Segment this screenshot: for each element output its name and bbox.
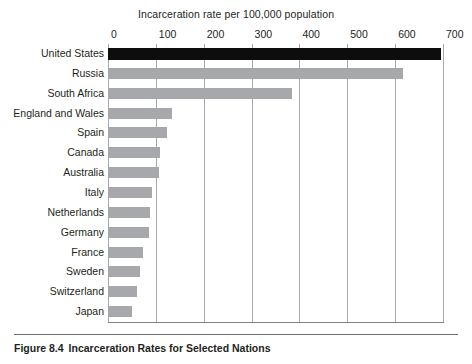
x-tick-label-200: 200 bbox=[204, 28, 225, 40]
category-label-russia: Russia bbox=[72, 65, 104, 82]
bar-germany bbox=[108, 227, 149, 238]
x-tick-label-700: 700 bbox=[443, 28, 464, 40]
bar-sweden bbox=[108, 266, 140, 277]
bar-row: United States bbox=[108, 44, 443, 64]
bar-australia bbox=[108, 167, 159, 178]
bar-switzerland bbox=[108, 286, 137, 297]
gridline-700 bbox=[443, 44, 444, 322]
category-label-netherlands: Netherlands bbox=[47, 204, 104, 221]
figure-caption-text: Incarceration Rates for Selected Nations bbox=[69, 342, 271, 354]
x-tick-label-600: 600 bbox=[395, 28, 416, 40]
category-label-england-and-wales: England and Wales bbox=[13, 105, 104, 122]
bar-row: Switzerland bbox=[108, 282, 443, 302]
figure-caption: Figure 8.4Incarceration Rates for Select… bbox=[14, 342, 271, 354]
category-label-spain: Spain bbox=[77, 124, 104, 141]
bar-row: Italy bbox=[108, 183, 443, 203]
category-label-australia: Australia bbox=[63, 164, 104, 181]
bar-row: Australia bbox=[108, 163, 443, 183]
bar-japan bbox=[108, 306, 132, 317]
caption-divider bbox=[14, 334, 458, 335]
x-tick-label-500: 500 bbox=[347, 28, 368, 40]
bar-row: Canada bbox=[108, 143, 443, 163]
x-tick-label-300: 300 bbox=[252, 28, 273, 40]
bar-row: Sweden bbox=[108, 262, 443, 282]
x-tick-label-400: 400 bbox=[299, 28, 320, 40]
chart-title: Incarceration rate per 100,000 populatio… bbox=[0, 8, 472, 20]
category-label-japan: Japan bbox=[75, 303, 104, 320]
bar-row: South Africa bbox=[108, 84, 443, 104]
bar-russia bbox=[108, 68, 403, 79]
bar-south-africa bbox=[108, 88, 292, 99]
category-label-south-africa: South Africa bbox=[47, 85, 104, 102]
x-axis-line bbox=[108, 322, 444, 323]
category-label-united-states: United States bbox=[41, 45, 104, 62]
bar-netherlands bbox=[108, 207, 150, 218]
bar-canada bbox=[108, 147, 160, 158]
bar-row: Russia bbox=[108, 64, 443, 84]
bar-row: England and Wales bbox=[108, 104, 443, 124]
bar-row: France bbox=[108, 243, 443, 263]
bar-italy bbox=[108, 187, 152, 198]
bar-row: Japan bbox=[108, 302, 443, 322]
bar-row: Germany bbox=[108, 223, 443, 243]
category-label-switzerland: Switzerland bbox=[50, 283, 104, 300]
bar-row: Netherlands bbox=[108, 203, 443, 223]
category-label-italy: Italy bbox=[85, 184, 104, 201]
bar-united-states bbox=[108, 48, 441, 60]
bar-england-and-wales bbox=[108, 108, 172, 119]
figure-number: Figure 8.4 bbox=[14, 342, 64, 354]
category-label-canada: Canada bbox=[67, 144, 104, 161]
plot-area: United StatesRussiaSouth AfricaEngland a… bbox=[108, 44, 443, 322]
category-label-france: France bbox=[71, 244, 104, 261]
category-label-sweden: Sweden bbox=[66, 263, 104, 280]
x-tick-label-0: 0 bbox=[108, 28, 117, 40]
bar-row: Spain bbox=[108, 123, 443, 143]
bar-spain bbox=[108, 127, 167, 138]
figure-container: Incarceration rate per 100,000 populatio… bbox=[0, 0, 472, 364]
x-tick-label-100: 100 bbox=[156, 28, 177, 40]
category-label-germany: Germany bbox=[61, 224, 104, 241]
bar-france bbox=[108, 247, 143, 258]
